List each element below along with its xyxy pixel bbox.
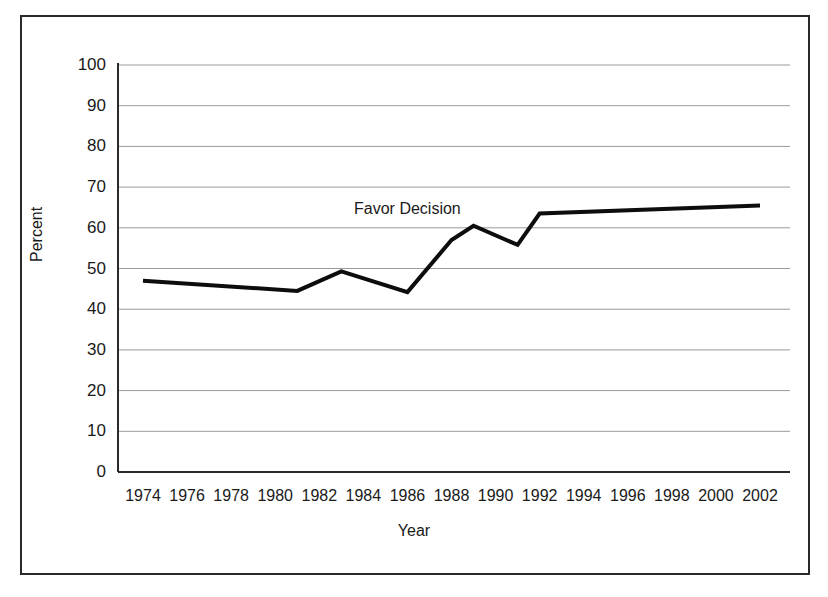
y-tick-label: 0	[46, 463, 106, 480]
x-axis-title: Year	[0, 522, 828, 540]
gridlines	[118, 65, 790, 431]
y-tick-label: 40	[46, 300, 106, 317]
x-tick-label: 2002	[732, 488, 788, 504]
y-tick-label: 90	[46, 97, 106, 114]
y-tick-label: 100	[46, 56, 106, 73]
y-tick-label: 60	[46, 219, 106, 236]
series-annotation-favor-decision: Favor Decision	[354, 200, 461, 218]
y-axis-title: Percent	[28, 207, 46, 262]
y-tick-label: 10	[46, 422, 106, 439]
plot-svg	[0, 0, 828, 597]
axis-lines	[118, 63, 790, 472]
y-tick-label: 20	[46, 382, 106, 399]
line-chart: 0102030405060708090100 19741976197819801…	[0, 0, 828, 597]
y-tick-label: 30	[46, 341, 106, 358]
y-tick-label: 80	[46, 137, 106, 154]
y-tick-label: 70	[46, 178, 106, 195]
y-tick-label: 50	[46, 260, 106, 277]
